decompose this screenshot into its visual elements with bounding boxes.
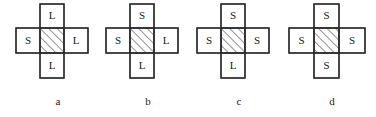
panel-caption-b: b	[101, 95, 195, 107]
cross-diagram-d: S S S S	[281, 0, 375, 95]
panel-caption-d: d	[285, 95, 376, 107]
panel-caption-c: c	[192, 95, 286, 107]
cell-top-label-d: S	[323, 9, 329, 21]
cell-center-hatched-b	[130, 28, 154, 53]
cell-bottom-label-a: L	[49, 59, 56, 71]
cell-center-hatched-a	[40, 28, 64, 53]
figure-root: S L L L a S L S L b	[0, 0, 376, 117]
cell-bottom-label-d: S	[323, 59, 329, 71]
cell-center-hatched-c	[221, 28, 245, 53]
cell-left-label-a: S	[25, 34, 31, 46]
cross-panel-c: S S S L c	[192, 0, 286, 117]
cross-diagram-b: S L S L	[101, 0, 195, 95]
cross-panel-d: S S S S d	[281, 0, 375, 117]
cell-top-label-a: L	[49, 9, 56, 21]
cell-left-label-d: S	[298, 34, 304, 46]
cell-right-label-d: S	[349, 34, 355, 46]
cell-bottom-label-c: L	[230, 59, 237, 71]
cell-right-label-a: L	[73, 34, 80, 46]
cell-right-label-c: S	[254, 34, 260, 46]
cell-center-hatched-d	[314, 28, 339, 53]
cross-panel-a: S L L L a	[11, 0, 105, 117]
cross-panel-b: S L S L b	[101, 0, 195, 117]
cell-left-label-c: S	[206, 34, 212, 46]
cell-top-label-b: S	[139, 9, 145, 21]
cell-bottom-label-b: L	[139, 59, 146, 71]
cell-top-label-c: S	[230, 9, 236, 21]
cross-diagram-a: S L L L	[11, 0, 105, 95]
cross-diagram-c: S S S L	[192, 0, 286, 95]
panel-caption-a: a	[11, 95, 105, 107]
cell-right-label-b: L	[163, 34, 170, 46]
cell-left-label-b: S	[115, 34, 121, 46]
